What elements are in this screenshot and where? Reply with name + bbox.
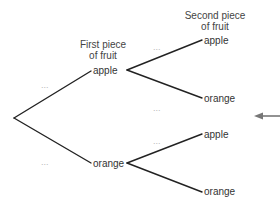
probability-tree-diagram: First piece of fruit Second piece of fru… xyxy=(0,0,280,202)
placeholder-apple-apple: ... xyxy=(153,43,161,52)
placeholder-apple-orange: ... xyxy=(153,104,161,113)
left-arrow-icon xyxy=(254,113,280,120)
second-level-orange-orange-label: orange xyxy=(204,186,235,197)
second-piece-header-line1: Second piece xyxy=(184,10,246,21)
placeholder-orange-apple: ... xyxy=(153,137,161,146)
branch-apple-to-apple xyxy=(127,40,202,70)
branch-apple-to-orange xyxy=(127,70,202,98)
first-level-orange-label: orange xyxy=(93,158,124,169)
first-piece-header: First piece of fruit xyxy=(78,39,128,61)
second-level-orange-apple-label: apple xyxy=(204,129,228,140)
placeholder-root-apple: ... xyxy=(41,81,49,90)
second-piece-header-line2: of fruit xyxy=(184,21,246,32)
first-piece-header-line2: of fruit xyxy=(78,50,128,61)
branch-orange-to-orange xyxy=(127,163,202,192)
placeholder-root-orange: ... xyxy=(41,158,49,167)
second-piece-header: Second piece of fruit xyxy=(184,10,246,32)
first-level-apple-label: apple xyxy=(93,65,117,76)
branch-root-to-apple xyxy=(14,71,91,118)
second-level-apple-orange-label: orange xyxy=(204,93,235,104)
branch-root-to-orange xyxy=(14,118,91,163)
branch-orange-to-apple xyxy=(127,134,202,163)
first-piece-header-line1: First piece xyxy=(78,39,128,50)
second-level-apple-apple-label: apple xyxy=(204,35,228,46)
